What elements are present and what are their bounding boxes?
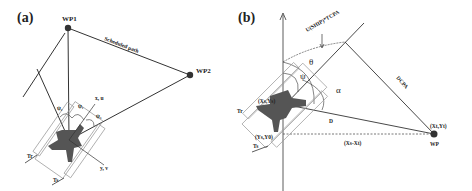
ship-position-label: (Xs,Ys) bbox=[258, 98, 275, 105]
wp2-label: WP2 bbox=[196, 67, 211, 75]
panel-b: (b) DCPA D (Xs-Xt) (Xt,Yt) WP U(SHIP)*TC… bbox=[237, 9, 447, 191]
angle-psi2-label: ψ₂ bbox=[57, 105, 63, 111]
angle-psi3-label: ψ₃ bbox=[96, 113, 102, 119]
target-coords-label: (Xt,Yt) bbox=[430, 123, 447, 130]
panel-a-label: (a) bbox=[17, 10, 34, 26]
target-label: WP bbox=[430, 141, 440, 147]
wp1-label: WP1 bbox=[62, 15, 77, 23]
thruster-tr-label-b: Tr bbox=[237, 108, 243, 114]
y-axis-point-label: (Ys,Y0) bbox=[255, 134, 273, 141]
dcpa-label: DCPA bbox=[395, 75, 409, 90]
panel-a: (a) WP1 WP2 Scheduled path x, u y, v ψ₂ … bbox=[17, 10, 211, 185]
y-axis-label-a: y, v bbox=[100, 165, 108, 171]
ship-to-wp2-line bbox=[69, 75, 190, 140]
thruster-ts-label-b: Ts bbox=[253, 143, 258, 149]
previous-heading-line bbox=[37, 69, 69, 140]
angle-psi1-label: ψ₁ bbox=[78, 103, 84, 109]
ship-to-wp1-line bbox=[68, 28, 69, 140]
scheduled-path-line bbox=[68, 28, 190, 75]
angle-arc-psi1 bbox=[72, 114, 84, 120]
angle-alpha-label: α bbox=[336, 85, 341, 95]
angle-theta-label: θ bbox=[309, 57, 313, 67]
angle-psi-label: ψ bbox=[300, 71, 306, 81]
diagram-canvas: (a) WP1 WP2 Scheduled path x, u y, v ψ₂ … bbox=[0, 0, 472, 191]
angle-alpha-arc bbox=[303, 80, 324, 110]
heading-line bbox=[283, 23, 364, 107]
x-axis-label-a: x, u bbox=[95, 95, 104, 101]
angle-arc-psi3 bbox=[86, 120, 94, 126]
distance-label: D bbox=[329, 118, 333, 124]
dx-label: (Xs-Xt) bbox=[344, 140, 362, 147]
panel-b-label: (b) bbox=[238, 10, 255, 26]
y-axis-a bbox=[69, 140, 104, 165]
wp1-marker bbox=[65, 25, 71, 31]
previous-path-line bbox=[23, 33, 65, 97]
dcpa-line bbox=[345, 42, 434, 134]
tcpa-label: U(SHIP)*TCPA bbox=[305, 9, 341, 34]
wp-target-marker bbox=[431, 131, 438, 138]
wp2-marker bbox=[187, 72, 193, 78]
scheduled-path-label: Scheduled path bbox=[104, 35, 140, 54]
